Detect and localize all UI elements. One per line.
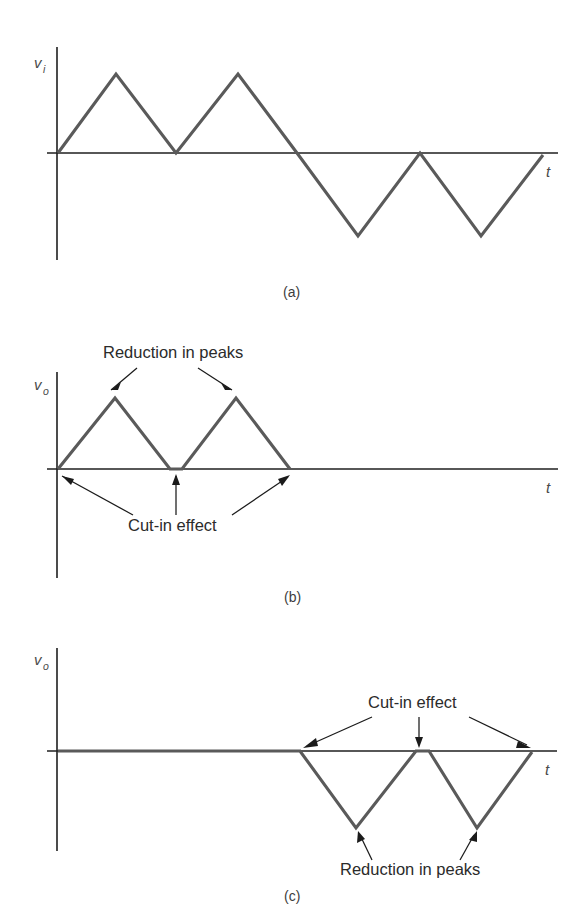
panel-a: v i t (a)	[0, 0, 584, 310]
panel-c: Cut-in effect Reduction in peaks v	[0, 620, 584, 917]
panel-c-y-axis-subscript: o	[43, 660, 49, 672]
panel-b-leader-cutin-origin	[62, 476, 133, 515]
panel-b-caption: (b)	[284, 589, 301, 605]
panel-b-annotation-cutin-label: Cut-in effect	[128, 516, 217, 534]
panel-c-leader-cutin-start	[303, 717, 372, 748]
panel-c-annotation-cutin-label: Cut-in effect	[368, 693, 457, 711]
panel-b-leader-cutin-end	[232, 475, 290, 515]
panel-b-annotation-reduction-label: Reduction in peaks	[103, 343, 243, 361]
panel-c-leader-cutin-mid	[415, 717, 423, 748]
panel-a-x-axis-label: t	[546, 163, 551, 180]
panel-b-waveform	[58, 398, 290, 469]
panel-b: Reduction in peaks Cut-in effect v	[0, 310, 584, 620]
panel-a-waveform	[58, 74, 543, 236]
panel-c-annotation-reduction-label: Reduction in peaks	[340, 860, 480, 878]
panel-c-x-axis-label: t	[545, 761, 550, 778]
panel-c-y-axis-label: v	[34, 651, 43, 668]
panel-b-leader-reduction-peak1	[111, 368, 137, 390]
panel-b-y-axis-subscript: o	[43, 385, 49, 397]
panel-c-leader-cutin-end	[469, 717, 531, 748]
panel-b-x-axis-label: t	[546, 479, 551, 496]
panel-b-leader-cutin-valley	[172, 474, 180, 515]
panel-b-y-axis-label: v	[34, 376, 43, 393]
panel-c-leader-reduction-trough1	[357, 831, 372, 860]
panel-c-leader-reduction-trough2	[460, 831, 477, 860]
panel-a-caption: (a)	[283, 284, 300, 300]
panel-b-leader-reduction-peak2	[198, 368, 232, 390]
panel-a-y-axis-label: v	[34, 54, 43, 71]
panel-c-waveform	[58, 751, 532, 828]
figure-root: v i t (a) Reduction in peaks Cut-in effe…	[0, 0, 584, 917]
panel-c-caption: (c)	[284, 888, 300, 904]
panel-a-y-axis-subscript: i	[43, 63, 46, 75]
